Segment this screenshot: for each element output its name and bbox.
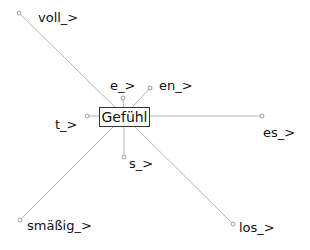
node-label-en: en_>: [159, 79, 193, 93]
word-network-diagram: voll_>e_>en_>t_>es_>s_>smäßig_>los_> Gef…: [0, 0, 310, 250]
edge-voll: [19, 13, 124, 116]
node-dot-t: [85, 114, 89, 118]
node-label-s: s_>: [129, 157, 153, 171]
node-label-los: los_>: [239, 221, 275, 235]
node-dot-es: [260, 114, 264, 118]
node-label-smassig: smäßig_>: [27, 219, 92, 233]
center-node: Gefühl: [99, 107, 150, 127]
node-label-t: t_>: [55, 118, 78, 132]
node-dot-los: [231, 222, 235, 226]
node-dot-smassig: [18, 218, 22, 222]
node-label-es: es_>: [263, 126, 295, 140]
node-label-voll: voll_>: [38, 11, 78, 25]
node-dot-en: [148, 86, 152, 90]
node-dot-s: [122, 155, 126, 159]
node-dot-e: [121, 96, 125, 100]
node-dot-voll: [17, 11, 21, 15]
node-label-e: e_>: [110, 79, 135, 93]
